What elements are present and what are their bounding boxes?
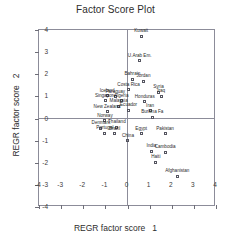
point-marker — [150, 150, 153, 153]
y-tick-label: 1 — [44, 92, 48, 99]
point-label: Haiti — [151, 154, 160, 159]
y-tick — [35, 163, 39, 164]
point-label: New Zealand — [94, 104, 121, 109]
point-label: U.Arab Em. — [128, 53, 152, 58]
point-label: Iraq — [157, 88, 165, 93]
x-tick — [128, 205, 129, 209]
point-label: Thailand — [108, 119, 126, 124]
x-tick-label: 1 — [147, 181, 151, 188]
y-tick-label: -2 — [42, 158, 48, 165]
point-label: Kuwait — [134, 28, 148, 33]
y-tick — [35, 119, 39, 120]
point-marker — [140, 132, 143, 135]
y-axis-label: REGR factor score 2 — [11, 55, 21, 175]
x-tick-label: -4 — [35, 181, 41, 188]
x-tick-label: 3 — [191, 181, 195, 188]
x-tick — [150, 205, 151, 209]
chart-title: Factor Score Plot — [0, 4, 231, 15]
point-label: Singapore — [95, 93, 116, 98]
point-label: Honduras — [135, 94, 155, 99]
plot-area: KuwaitU.Arab Em.BahrainJordanCosta RicaS… — [38, 29, 215, 206]
point-label: Cambodia — [155, 144, 176, 149]
y-tick-label: 4 — [44, 26, 48, 33]
point-marker — [151, 116, 154, 119]
x-tick-label: -3 — [57, 181, 63, 188]
point-marker — [140, 35, 143, 38]
x-tick-label: 0 — [125, 181, 129, 188]
point-label: Costa Rica — [117, 82, 139, 87]
point-label: Afghanistan — [165, 168, 189, 173]
x-tick — [172, 205, 173, 209]
point-label: Burkina Fa — [141, 109, 163, 114]
factor-score-plot: Factor Score Plot KuwaitU.Arab Em.Bahrai… — [0, 0, 231, 244]
point-marker — [131, 78, 134, 81]
point-marker — [104, 99, 107, 102]
point-label: Egypt — [135, 126, 147, 131]
point-label: Ecuador — [120, 102, 137, 107]
x-tick-label: 2 — [169, 181, 173, 188]
point-marker — [138, 59, 141, 62]
y-tick-label: -3 — [42, 180, 48, 187]
x-tick — [39, 205, 40, 209]
x-tick — [83, 205, 84, 209]
y-tick-label: 3 — [44, 48, 48, 55]
y-tick — [35, 96, 39, 97]
y-tick-label: 2 — [44, 70, 48, 77]
y-tick-label: 0 — [44, 114, 48, 121]
point-marker — [164, 151, 167, 154]
point-marker — [154, 161, 157, 164]
point-label: China — [122, 133, 134, 138]
x-tick — [105, 205, 106, 209]
y-tick — [35, 207, 39, 208]
point-label: Norway — [97, 113, 113, 118]
point-marker — [126, 139, 129, 142]
x-tick-label: -1 — [101, 181, 107, 188]
point-label: Algeria — [114, 93, 128, 98]
point-label: Brazil — [109, 126, 121, 131]
y-tick — [35, 30, 39, 31]
point-label: Iran — [146, 103, 154, 108]
point-marker — [160, 95, 163, 98]
x-tick — [61, 205, 62, 209]
point-marker — [164, 132, 167, 135]
x-tick-label: -2 — [79, 181, 85, 188]
point-marker — [113, 132, 116, 135]
x-tick — [194, 205, 195, 209]
point-marker — [127, 109, 130, 112]
point-marker — [176, 175, 179, 178]
y-tick-label: -1 — [42, 136, 48, 143]
y-tick — [35, 52, 39, 53]
point-label: Jordan — [136, 73, 150, 78]
x-tick — [216, 205, 217, 209]
x-tick-label: 4 — [213, 181, 217, 188]
point-marker — [142, 80, 145, 83]
point-marker — [127, 88, 130, 91]
x-axis-label: REGR factor score 1 — [0, 223, 231, 233]
point-label: Pakistan — [156, 126, 174, 131]
y-tick — [35, 141, 39, 142]
y-tick-label: -4 — [42, 203, 48, 210]
y-tick — [35, 74, 39, 75]
point-marker — [103, 132, 106, 135]
